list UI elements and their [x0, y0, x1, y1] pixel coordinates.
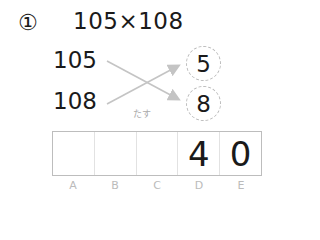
- column-labels: A B C D E: [52, 179, 262, 192]
- circle-top-digit: 5: [186, 46, 221, 81]
- answer-grid: 4 0: [52, 131, 262, 176]
- column-label-b: B: [94, 179, 136, 192]
- column-label-c: C: [136, 179, 178, 192]
- column-label-d: D: [178, 179, 220, 192]
- answer-cell-c[interactable]: [137, 132, 179, 175]
- answer-cell-b[interactable]: [95, 132, 137, 175]
- answer-cell-a[interactable]: [53, 132, 95, 175]
- column-label-e: E: [220, 179, 262, 192]
- answer-cell-d[interactable]: 4: [178, 132, 220, 175]
- answer-cell-e[interactable]: 0: [220, 132, 261, 175]
- column-label-a: A: [52, 179, 94, 192]
- operation-label: たす: [133, 107, 151, 120]
- circle-bottom-digit: 8: [186, 86, 221, 121]
